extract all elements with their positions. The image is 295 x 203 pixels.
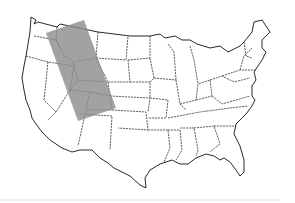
highlight-region bbox=[46, 20, 116, 121]
us-map bbox=[0, 0, 295, 203]
